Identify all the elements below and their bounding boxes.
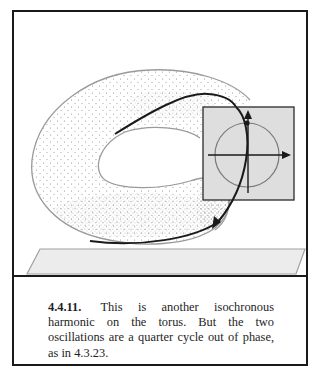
figure-number: 4.4.11. bbox=[48, 300, 81, 314]
caption-divider bbox=[12, 275, 308, 277]
base-plane bbox=[27, 249, 305, 274]
figure-caption: 4.4.11. This is another isochronous harm… bbox=[48, 300, 274, 361]
torus-illustration bbox=[0, 0, 320, 280]
inset-phase-panel bbox=[203, 107, 294, 200]
caption-text: This is another isochronous harmonic on … bbox=[48, 300, 274, 360]
